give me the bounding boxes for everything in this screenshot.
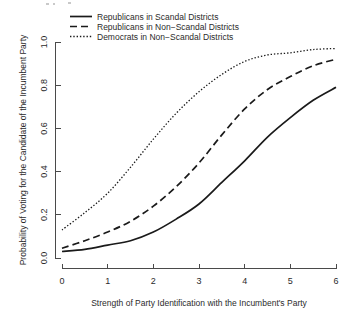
line-chart: 0.0 0.2 0.4 0.6 0.8 1.0 Probability of V… <box>0 0 355 319</box>
x-tick-label: 4 <box>242 276 247 286</box>
y-tick-label: 1.0 <box>39 36 49 49</box>
y-tick-label: 0.4 <box>39 165 49 178</box>
x-axis-title: Strength of Party Identification with th… <box>91 298 307 308</box>
x-tick-label: 5 <box>288 276 293 286</box>
y-tick-label: 0.6 <box>39 122 49 135</box>
x-tick-label: 1 <box>105 276 110 286</box>
chart-background <box>0 0 355 319</box>
x-tick-label: 2 <box>151 276 156 286</box>
x-tick-label: 0 <box>59 276 64 286</box>
figure-container: 0.0 0.2 0.4 0.6 0.8 1.0 Probability of V… <box>0 0 355 319</box>
y-tick-label: 0.8 <box>39 79 49 92</box>
legend-label: Democrats in Non−Scandal Districts <box>97 32 233 42</box>
x-tick-label: 3 <box>196 276 201 286</box>
y-tick-label: 0.2 <box>39 209 49 222</box>
y-tick-label: 0.0 <box>39 252 49 265</box>
legend-label: Republicans in Scandal Districts <box>97 12 218 22</box>
x-tick-label: 6 <box>333 276 338 286</box>
y-axis-title: Probability of Voting for the Candidate … <box>18 34 28 265</box>
legend-label: Republicans in Non−Scandal Districts <box>97 22 239 32</box>
